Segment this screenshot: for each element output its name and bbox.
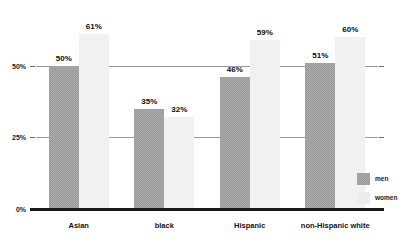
bar-men[interactable]: [305, 63, 335, 209]
y-axis-tick-label: 25%: [0, 134, 26, 141]
axis-tick: [379, 137, 384, 138]
bar-value-label: 50%: [44, 55, 84, 63]
axis-tick: [30, 137, 35, 138]
bar-men[interactable]: [220, 77, 250, 209]
bar-men[interactable]: [49, 66, 79, 209]
legend-label-men: men: [375, 176, 388, 183]
x-axis-category-label: non-Hispanic white: [283, 222, 389, 230]
bar-value-label: 35%: [129, 98, 169, 106]
plot-area: [36, 14, 378, 209]
bar-group: [36, 14, 122, 209]
axis-tick: [30, 66, 35, 67]
bar-value-label: 51%: [300, 52, 340, 60]
legend-swatch-men: [357, 173, 370, 185]
bar-men[interactable]: [134, 109, 164, 209]
legend-label-women: women: [375, 195, 397, 202]
page-title: [0, 0, 410, 2]
bar-value-label: 60%: [330, 26, 370, 34]
bar-group: [207, 14, 293, 209]
y-axis-tick-label: 50%: [0, 63, 26, 70]
bar-women[interactable]: [164, 117, 194, 209]
bar-value-label: 61%: [74, 23, 114, 31]
y-axis-tick-label: 0%: [0, 206, 26, 213]
legend-swatch-women: [357, 192, 370, 204]
chart-figure: men women 0%25%50%50%61%Asian35%32%black…: [0, 0, 410, 245]
axis-tick: [379, 66, 384, 67]
bar-value-label: 46%: [215, 66, 255, 74]
bar-value-label: 32%: [159, 106, 199, 114]
bar-value-label: 59%: [245, 29, 285, 37]
axis-baseline: [30, 208, 384, 211]
